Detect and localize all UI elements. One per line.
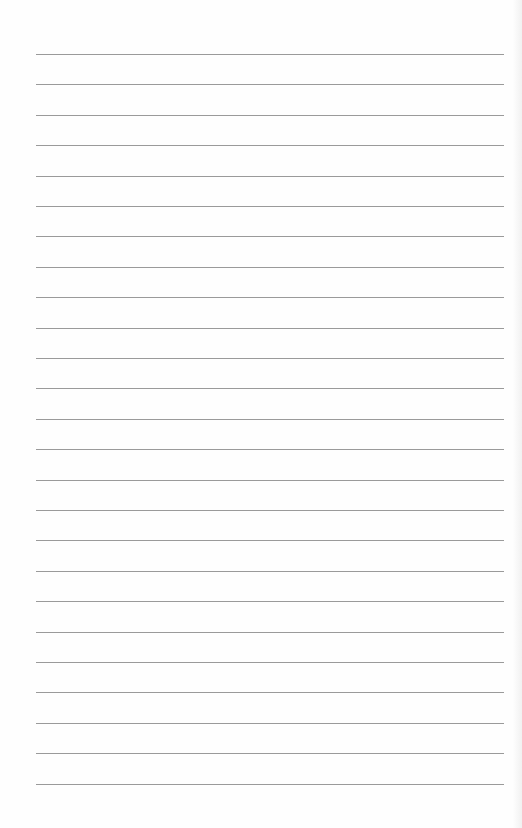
ruled-line bbox=[36, 662, 504, 663]
lined-paper-sheet bbox=[0, 0, 522, 828]
ruled-line bbox=[36, 115, 504, 116]
ruled-line bbox=[36, 571, 504, 572]
page-edge-shadow bbox=[512, 0, 522, 828]
ruled-line bbox=[36, 267, 504, 268]
ruled-line bbox=[36, 480, 504, 481]
ruled-line bbox=[36, 297, 504, 298]
ruled-line bbox=[36, 632, 504, 633]
ruled-line bbox=[36, 449, 504, 450]
ruled-line bbox=[36, 388, 504, 389]
ruled-line bbox=[36, 176, 504, 177]
ruled-line bbox=[36, 419, 504, 420]
ruled-line bbox=[36, 206, 504, 207]
ruled-line bbox=[36, 753, 504, 754]
ruled-line bbox=[36, 723, 504, 724]
ruled-line bbox=[36, 510, 504, 511]
ruled-line bbox=[36, 236, 504, 237]
ruled-line bbox=[36, 358, 504, 359]
ruled-line bbox=[36, 328, 504, 329]
ruled-line bbox=[36, 54, 504, 55]
ruled-line bbox=[36, 784, 504, 785]
ruled-line bbox=[36, 145, 504, 146]
ruled-line bbox=[36, 540, 504, 541]
ruled-line bbox=[36, 692, 504, 693]
ruled-line bbox=[36, 84, 504, 85]
ruled-line bbox=[36, 601, 504, 602]
